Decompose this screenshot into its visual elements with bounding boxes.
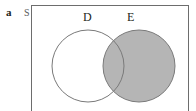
set-label-e: E (127, 11, 134, 23)
venn-diagram-figure: a S D E (0, 0, 196, 111)
venn-canvas (0, 0, 196, 111)
set-label-d: D (83, 11, 92, 23)
